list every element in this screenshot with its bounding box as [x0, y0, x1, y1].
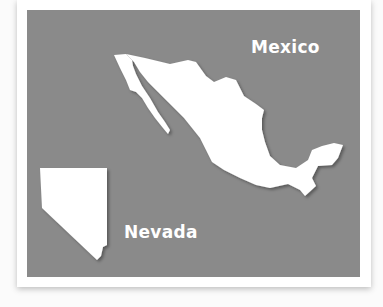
nevada-label: Nevada — [124, 222, 198, 242]
mexico-map-icon — [114, 54, 343, 196]
mexico-label: Mexico — [251, 37, 320, 57]
map-shapes — [0, 0, 383, 307]
nevada-map-icon — [40, 168, 107, 260]
